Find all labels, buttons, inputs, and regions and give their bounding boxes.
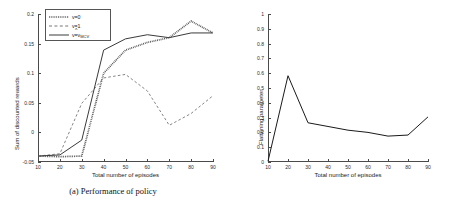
axes-b: 10203040506070809000.10.20.30.40.50.60.7… bbox=[268, 14, 428, 162]
y-tick-label: 0.9 bbox=[257, 26, 264, 32]
caption-a: (a) Performance of policy bbox=[0, 186, 226, 196]
y-tick-label: 0.15 bbox=[24, 41, 34, 47]
legend-key-dashed-icon bbox=[49, 22, 69, 30]
y-axis-label-b: Flattening parameter bbox=[258, 90, 264, 145]
x-tick-label: 60 bbox=[145, 164, 151, 170]
x-tick bbox=[428, 159, 429, 162]
x-tick-label: 80 bbox=[188, 164, 194, 170]
y-tick bbox=[268, 162, 271, 163]
series-line-v-0 bbox=[38, 21, 213, 157]
legend-label-vmcv-sub: MCV bbox=[80, 34, 89, 39]
y-tick-label: 0.1 bbox=[27, 70, 34, 76]
x-tick-label: 90 bbox=[425, 164, 431, 170]
x-tick-label: 10 bbox=[265, 164, 271, 170]
x-axis-label-a: Total number of episodes bbox=[38, 172, 213, 178]
y-tick-label: 0 bbox=[261, 159, 264, 165]
x-tick-label: 60 bbox=[365, 164, 371, 170]
y-tick-label: 0.05 bbox=[24, 100, 34, 106]
y-tick-label: 0 bbox=[31, 129, 34, 135]
hat-accent: ^ bbox=[72, 28, 80, 33]
x-tick-label: 40 bbox=[101, 164, 107, 170]
x-tick-label: 30 bbox=[79, 164, 85, 170]
legend-a: v=0 v=1 ^v=vMCV bbox=[45, 9, 111, 41]
legend-key-dotted-icon bbox=[49, 13, 69, 21]
y-tick-label: 0.1 bbox=[257, 144, 264, 150]
legend-label-v0: v=0 bbox=[72, 14, 81, 20]
x-tick-label: 70 bbox=[385, 164, 391, 170]
x-axis-label-b: Total number of episodes bbox=[268, 172, 428, 178]
y-tick-label: 0.6 bbox=[257, 70, 264, 76]
y-tick-label: 0.7 bbox=[257, 55, 264, 61]
y-tick-label: 0.8 bbox=[257, 41, 264, 47]
x-tick-label: 30 bbox=[305, 164, 311, 170]
series-group-b bbox=[268, 14, 428, 162]
y-tick bbox=[38, 162, 41, 163]
series-line-v-v-mcv bbox=[38, 33, 213, 156]
figure-container: Sum of discounted rewards 10203040506070… bbox=[0, 0, 452, 212]
x-tick bbox=[213, 159, 214, 162]
x-tick-label: 80 bbox=[405, 164, 411, 170]
series-line-flattening-parameter bbox=[268, 76, 428, 162]
legend-item-v0: v=0 bbox=[49, 12, 107, 21]
y-tick-label: 1 bbox=[261, 11, 264, 17]
x-tick-label: 20 bbox=[57, 164, 63, 170]
x-tick-label: 40 bbox=[325, 164, 331, 170]
legend-item-vmcv: ^v=vMCV bbox=[49, 30, 107, 39]
x-tick-label: 90 bbox=[210, 164, 216, 170]
series-line-v-1 bbox=[38, 74, 213, 156]
x-tick-label: 20 bbox=[285, 164, 291, 170]
x-tick-label: 50 bbox=[123, 164, 129, 170]
plot-area-a: Sum of discounted rewards 10203040506070… bbox=[0, 0, 226, 180]
legend-key-solid-icon bbox=[49, 31, 69, 39]
x-tick-label: 50 bbox=[345, 164, 351, 170]
x-tick-label: 10 bbox=[35, 164, 41, 170]
y-axis-label-a: Sum of discounted rewards bbox=[14, 77, 20, 150]
panel-performance-of-policy: Sum of discounted rewards 10203040506070… bbox=[0, 0, 226, 212]
y-tick-label: 0.2 bbox=[27, 11, 34, 17]
x-tick-label: 70 bbox=[166, 164, 172, 170]
legend-label-vmcv: ^v=vMCV bbox=[72, 32, 89, 38]
y-tick-label: -0.05 bbox=[23, 159, 34, 165]
